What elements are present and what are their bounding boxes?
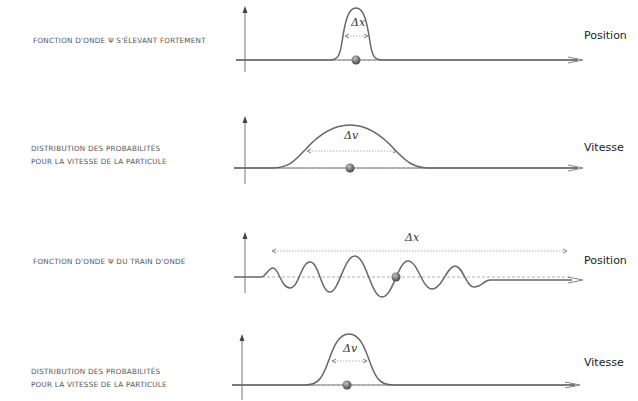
- y-axis-arrow-icon: [240, 334, 245, 341]
- delta-v-label: Δv: [342, 342, 358, 355]
- y-axis-arrow-icon: [243, 116, 248, 123]
- particle-icon: [343, 381, 352, 390]
- delta-x-label: Δx: [404, 231, 420, 244]
- particle-icon: [392, 273, 401, 282]
- probability-curve: [234, 125, 578, 168]
- probability-curve: [232, 334, 575, 385]
- panel-velocity-distribution-narrow: Δv: [232, 334, 580, 400]
- wavefunction-curve: [236, 8, 578, 60]
- panel-wavefunction-peak: Δx: [236, 6, 583, 72]
- y-axis-arrow-icon: [243, 6, 248, 13]
- panel-velocity-distribution-wide: Δv: [234, 116, 583, 184]
- delta-x-label: Δx: [350, 16, 366, 29]
- y-axis-arrow-icon: [243, 232, 248, 239]
- delta-v-label: Δv: [343, 129, 359, 142]
- wave-train-curve: [234, 256, 572, 297]
- particle-icon: [352, 56, 361, 65]
- panel-wave-train: Δx: [234, 231, 583, 297]
- particle-icon: [346, 164, 355, 173]
- diagram-canvas: Δx Δv Δx Δv: [0, 0, 638, 401]
